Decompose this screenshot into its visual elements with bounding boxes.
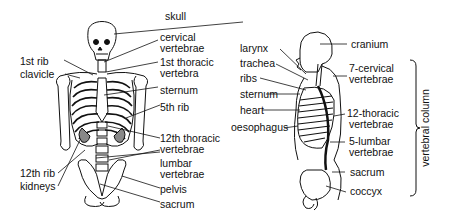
label-cervical-vertebrae-line2: vertebrae: [160, 43, 204, 54]
label-kidneys: kidneys: [20, 181, 56, 192]
label-first-thoracic-line2: vertebra: [160, 68, 199, 79]
label-larynx: larynx: [240, 43, 268, 54]
label-sacrum-side: sacrum: [350, 167, 384, 178]
label-trachea: trachea: [240, 58, 275, 69]
label-lumbar-line2: vertebrae: [160, 169, 204, 180]
label-sacrum-front: sacrum: [160, 199, 194, 210]
label-ribs: ribs: [240, 73, 257, 84]
front-skeleton: [56, 22, 147, 207]
label-clavicle: clavicle: [20, 69, 54, 80]
label-heart: heart: [240, 105, 264, 116]
label-oesophagus: oesophagus: [231, 122, 288, 133]
label-cervical-side-line2: vertebrae: [349, 74, 393, 85]
label-first-rib: 1st rib: [20, 56, 49, 67]
label-skull: skull: [165, 11, 186, 22]
label-cranium: cranium: [351, 39, 388, 50]
label-sternum-side: sternum: [240, 89, 278, 100]
label-fifth-rib: 5th rib: [160, 102, 189, 113]
label-vertebral-column: vertebral column: [419, 68, 431, 188]
label-twelfth-rib: 12th rib: [20, 168, 55, 179]
side-skeleton: [294, 32, 341, 210]
label-sternum: sternum: [160, 85, 198, 96]
label-lumbar-side-line2: vertebrae: [349, 147, 393, 158]
label-pelvis: pelvis: [160, 184, 187, 195]
label-twelfth-thoracic-line2: vertebrae: [160, 144, 204, 155]
label-coccyx: coccyx: [350, 186, 382, 197]
label-thoracic-side-line2: vertebrae: [349, 119, 393, 130]
